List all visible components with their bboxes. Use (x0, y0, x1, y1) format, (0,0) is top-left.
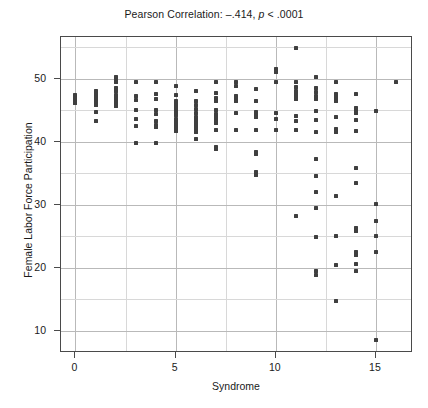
data-point (134, 80, 138, 84)
data-point (234, 111, 238, 115)
chart-title-prefix: Pearson Correlation: –.414, (124, 8, 258, 20)
data-point (154, 125, 158, 129)
data-point (314, 130, 318, 134)
data-point (94, 110, 98, 114)
data-point (134, 98, 138, 102)
gridline-vertical (326, 37, 327, 351)
x-axis-tick-mark (275, 352, 276, 358)
gridline-horizontal (61, 268, 411, 269)
data-point (134, 117, 138, 121)
data-point (334, 194, 338, 198)
data-point (194, 99, 198, 103)
data-point (294, 114, 298, 118)
data-point (254, 173, 258, 177)
data-point (314, 86, 318, 90)
data-point (194, 137, 198, 141)
data-point (334, 130, 338, 134)
data-point (314, 269, 318, 273)
gridline-horizontal (61, 331, 411, 332)
y-axis-tick-mark (54, 267, 60, 268)
data-point (334, 115, 338, 119)
gridline-horizontal (61, 299, 411, 300)
data-point (94, 103, 98, 107)
data-point (254, 128, 258, 132)
gridline-horizontal (61, 47, 411, 48)
gridline-horizontal (61, 205, 411, 206)
data-point (314, 118, 318, 122)
data-point (354, 269, 358, 273)
data-point (354, 229, 358, 233)
data-point (274, 80, 278, 84)
data-point (154, 141, 158, 145)
data-point (374, 109, 378, 113)
data-point (214, 147, 218, 151)
data-point (334, 263, 338, 267)
x-axis-tick-label: 10 (255, 361, 295, 373)
data-point (314, 235, 318, 239)
data-point (374, 219, 378, 223)
data-point (374, 202, 378, 206)
data-point (294, 46, 298, 50)
data-point (154, 119, 158, 123)
data-point (314, 190, 318, 194)
data-point (334, 234, 338, 238)
data-point (154, 97, 158, 101)
data-point (374, 234, 378, 238)
y-axis-tick-mark (54, 78, 60, 79)
y-axis-title: Female Labor Force Participation (22, 80, 34, 320)
x-axis-tick-mark (74, 352, 75, 358)
gridline-vertical (75, 37, 76, 351)
data-point (214, 108, 218, 112)
gridline-vertical (276, 37, 277, 351)
data-point (374, 250, 378, 254)
gridline-horizontal (61, 173, 411, 174)
scatter-plot-figure: Pearson Correlation: –.414, p < .0001 10… (0, 0, 428, 408)
data-point (234, 99, 238, 103)
data-point (254, 99, 258, 103)
data-point (374, 338, 378, 342)
y-axis-tick-mark (54, 141, 60, 142)
data-point (354, 166, 358, 170)
data-point (334, 299, 338, 303)
data-point (154, 112, 158, 116)
plot-area (60, 36, 412, 352)
data-point (294, 128, 298, 132)
data-point (174, 84, 178, 88)
data-point (214, 121, 218, 125)
data-point (174, 129, 178, 133)
x-axis-tick-label: 0 (54, 361, 94, 373)
data-point (294, 97, 298, 101)
data-point (314, 206, 318, 210)
data-point (394, 80, 398, 84)
gridline-vertical (226, 37, 227, 351)
data-point (194, 130, 198, 134)
gridline-horizontal (61, 236, 411, 237)
data-point (214, 128, 218, 132)
data-point (294, 119, 298, 123)
data-point (354, 92, 358, 96)
data-point (354, 111, 358, 115)
x-axis-tick-label: 5 (155, 361, 195, 373)
data-point (194, 89, 198, 93)
gridline-horizontal (61, 142, 411, 143)
data-point (354, 129, 358, 133)
data-point (134, 141, 138, 145)
data-point (214, 80, 218, 84)
x-axis-title: Syndrome (60, 380, 412, 392)
data-point (94, 119, 98, 123)
data-point (314, 273, 318, 277)
data-point (314, 75, 318, 79)
data-point (234, 84, 238, 88)
data-point (354, 118, 358, 122)
data-point (314, 174, 318, 178)
chart-title: Pearson Correlation: –.414, p < .0001 (0, 8, 428, 20)
data-point (274, 128, 278, 132)
data-point (294, 214, 298, 218)
data-point (314, 97, 318, 101)
gridline-vertical (376, 37, 377, 351)
data-point (274, 70, 278, 74)
y-axis-tick-label: 10 (0, 324, 46, 336)
data-point (154, 80, 158, 84)
data-point (334, 80, 338, 84)
data-point (214, 91, 218, 95)
